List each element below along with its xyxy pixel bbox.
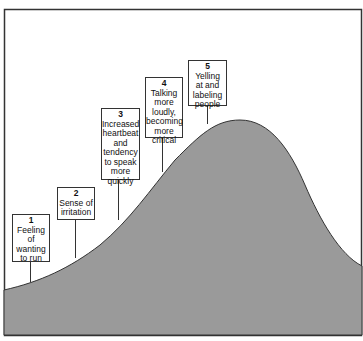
stage-2-pointer	[75, 220, 76, 258]
stage-3-pointer	[118, 180, 119, 220]
stage-label: Sense of irritation	[58, 199, 94, 218]
stage-1-box: 1 Feeling of wanting to run	[12, 214, 50, 262]
stage-2-box: 2 Sense of irritation	[57, 187, 95, 220]
stage-4-box: 4 Talking more loudly, becoming more cri…	[145, 77, 183, 138]
stage-3-box: 3 Increased heartbeat and tendency to sp…	[101, 108, 140, 180]
curve-chart	[0, 0, 363, 341]
stage-1-pointer	[30, 262, 31, 282]
stage-5-box: 5 Yelling at and labeling people	[188, 60, 227, 106]
stage-label: Feeling of wanting to run	[13, 226, 49, 264]
stage-label: Increased heartbeat and tendency to spea…	[102, 120, 139, 187]
stage-label: Yelling at and labeling people	[189, 72, 226, 110]
stage-label: Talking more loudly, becoming more criti…	[146, 89, 182, 146]
